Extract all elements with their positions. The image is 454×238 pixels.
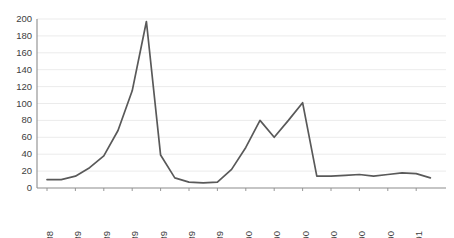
- x-axis-tick-label: Jun-89: [129, 231, 140, 238]
- y-axis-tick-label: 80: [21, 114, 32, 125]
- y-axis-tick-label: 40: [21, 148, 32, 159]
- x-axis-tick-label: Dec-88: [44, 231, 55, 238]
- x-axis-tick-label: Apr-90: [271, 231, 282, 238]
- y-axis-tick-label: 60: [21, 131, 32, 142]
- x-axis-tick-label: Jun-90: [300, 231, 311, 238]
- series-line-1: [47, 22, 430, 183]
- y-axis-tick-label: 20: [21, 165, 32, 176]
- gridlines: [37, 19, 446, 171]
- line-chart: 020406080100120140160180200 Dec-88Feb-89…: [0, 0, 454, 238]
- x-axis-tick-label: Feb-89: [72, 231, 83, 238]
- y-axis-tick-label: 100: [16, 98, 32, 109]
- x-axis-tick-label: Feb-90: [243, 231, 254, 238]
- x-axis-tick-label: Oct-90: [356, 231, 367, 238]
- x-axis-tick-label: Feb-91: [413, 231, 424, 238]
- y-axis-tick-label: 180: [16, 30, 32, 41]
- y-axis-tick-label: 120: [16, 81, 32, 92]
- x-axis-tick-label: Dec-90: [385, 231, 396, 238]
- chart-canvas: 020406080100120140160180200 Dec-88Feb-89…: [0, 0, 454, 238]
- y-axis-tick-label: 200: [16, 13, 32, 24]
- y-axis-tick-label: 0: [27, 182, 32, 193]
- x-axis-tick-label: Aug-89: [158, 231, 169, 238]
- x-axis-tick-label: Aug-90: [328, 231, 339, 238]
- x-axis-tick-label: Oct-89: [186, 231, 197, 238]
- y-axis-tick-label: 160: [16, 47, 32, 58]
- y-axis-tick-labels: 020406080100120140160180200: [16, 13, 32, 193]
- y-axis-tick-label: 140: [16, 64, 32, 75]
- x-axis-tick-label: Apr-89: [101, 231, 112, 238]
- x-axis-tick-labels: Dec-88Feb-89Apr-89Jun-89Aug-89Oct-89Dec-…: [44, 231, 424, 238]
- x-axis-tick-label: Dec-89: [214, 231, 225, 238]
